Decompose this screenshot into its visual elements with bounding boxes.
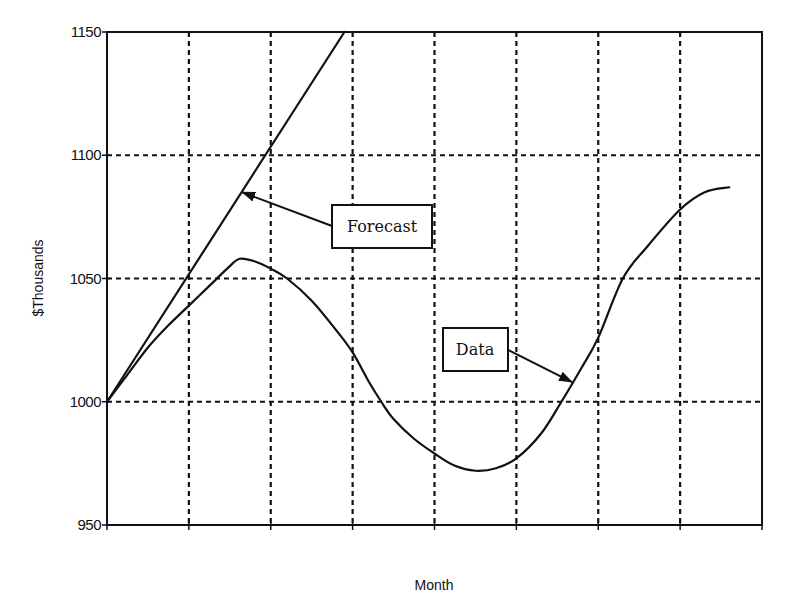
annotation-arrow-forecast — [242, 192, 332, 226]
annotation-data: Data — [443, 328, 572, 382]
y-tick-label: 1150 — [71, 23, 101, 40]
y-tick-label: 950 — [77, 516, 101, 533]
annotation-arrow-data — [508, 350, 572, 382]
y-axis-label: $Thousands — [30, 239, 46, 316]
y-tick-label: 1100 — [71, 146, 101, 163]
axes — [102, 32, 762, 530]
y-tick-label: 1050 — [70, 270, 102, 287]
x-axis-label: Month — [415, 577, 454, 593]
annotation-label-data: Data — [456, 340, 495, 359]
series — [107, 32, 729, 471]
y-tick-label: 1000 — [70, 393, 102, 410]
annotation-label-forecast: Forecast — [347, 217, 418, 236]
y-tick-labels: 9501000105011001150 — [70, 23, 102, 533]
annotations: ForecastData — [242, 192, 572, 382]
grid — [107, 32, 762, 525]
chart: 9501000105011001150 ForecastData $Thousa… — [0, 0, 785, 611]
